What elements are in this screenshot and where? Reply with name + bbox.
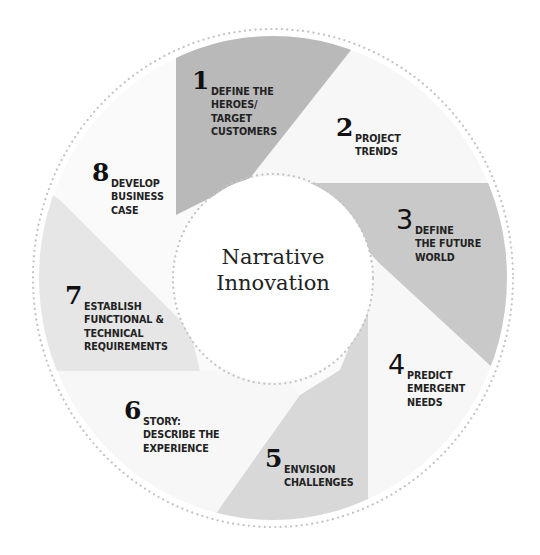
step-label: Predict emergent needs [407,369,465,409]
step-number: 5 [265,446,282,471]
step-label: Envision challenges [284,463,354,490]
step-label: Story: describe the experience [143,415,220,455]
step-number: 6 [124,398,141,423]
step-label: Define the heroes/ target customers [211,85,277,139]
step-number: 2 [336,115,353,140]
step-number: 4 [388,352,405,377]
step-label: Develop business case [111,177,164,217]
step-number: 7 [65,283,82,308]
center-title: Narrative Innovation [173,244,373,296]
step-label: Establish functional & technical require… [84,300,168,354]
step-number: 1 [192,68,209,93]
step-label: Define the future world [415,224,481,264]
step-number: 3 [396,207,413,232]
step-label: Project trends [355,132,401,159]
step-number: 8 [92,160,109,185]
